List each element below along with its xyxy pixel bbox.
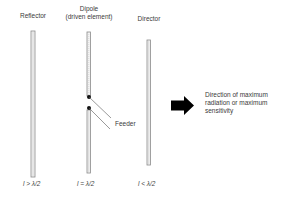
dipole-label-line2: (driven element): [58, 13, 120, 21]
reflector-label: Reflector: [8, 12, 58, 20]
feeder-label: Feeder: [115, 120, 136, 128]
dipole-lower-rod: [87, 110, 91, 173]
dipole-label: Dipole (driven element): [58, 5, 120, 21]
dipole-length-condition: l = λ/2: [77, 180, 94, 187]
direction-line3: sensitivity: [205, 107, 289, 115]
dipole-upper-rod: [87, 32, 91, 96]
reflector-length-condition: l > λ/2: [23, 180, 40, 187]
dipole-label-line1: Dipole: [58, 5, 120, 13]
feeder-lines: [89, 97, 111, 129]
direction-line2: radiation or maximum: [205, 99, 289, 107]
director-length-condition: l < λ/2: [138, 180, 155, 187]
direction-arrow-icon: [171, 96, 194, 115]
direction-line1: Direction of maximum: [205, 91, 289, 99]
director-rod: [147, 40, 151, 165]
director-label: Director: [124, 15, 174, 23]
direction-description: Direction of maximum radiation or maximu…: [205, 91, 289, 115]
reflector-rod: [31, 31, 35, 177]
